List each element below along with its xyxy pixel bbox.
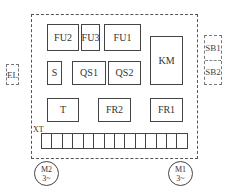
component-label: FU1	[114, 33, 132, 43]
terminal-cell	[167, 134, 177, 148]
motor-phase: 3~	[176, 174, 184, 183]
external-button-group: SB1 SB2	[204, 35, 222, 85]
component-fr2: FR2	[98, 98, 131, 122]
terminal-cell	[125, 134, 135, 148]
terminal-cell	[84, 134, 94, 148]
terminal-cell	[52, 134, 62, 148]
lamp-label: EL	[7, 70, 18, 80]
component-qs1: QS1	[72, 61, 106, 85]
component-fu2: FU2	[47, 24, 79, 51]
external-lamp-el: EL	[6, 64, 19, 85]
terminal-cell	[115, 134, 125, 148]
motor-m1-icon: M1 3~	[168, 161, 193, 186]
component-fu1: FU1	[104, 24, 141, 51]
component-label: FU3	[82, 33, 100, 43]
terminal-cell	[146, 134, 156, 148]
motor-phase: 3~	[42, 174, 50, 183]
button-label: SB2	[205, 67, 221, 77]
component-label: QS1	[80, 68, 98, 78]
terminal-cell	[42, 134, 52, 148]
terminal-cell	[105, 134, 115, 148]
component-label: T	[60, 105, 66, 115]
terminal-cell	[157, 134, 167, 148]
component-t: T	[47, 98, 79, 122]
component-label: QS2	[116, 68, 134, 78]
component-fu3: FU3	[81, 24, 100, 51]
terminal-cell	[94, 134, 104, 148]
terminal-cell	[63, 134, 73, 148]
component-qs2: QS2	[108, 61, 141, 85]
component-fr1: FR1	[150, 98, 183, 122]
motor-name: M2	[41, 165, 52, 174]
motor-m2-icon: M2 3~	[34, 161, 59, 186]
component-label: FR2	[106, 105, 123, 115]
motor-name: M1	[175, 165, 186, 174]
component-s: S	[47, 61, 62, 85]
component-label: S	[52, 68, 58, 78]
button-label: SB1	[205, 43, 221, 53]
button-sb1: SB1	[205, 36, 221, 60]
terminal-cell	[177, 134, 186, 148]
button-sb2: SB2	[205, 60, 221, 85]
terminal-cell	[136, 134, 146, 148]
terminal-block	[41, 133, 188, 149]
component-label: KM	[158, 56, 174, 66]
component-km: KM	[150, 36, 183, 85]
terminal-cell	[73, 134, 83, 148]
component-label: FU2	[54, 33, 72, 43]
component-label: FR1	[158, 105, 175, 115]
